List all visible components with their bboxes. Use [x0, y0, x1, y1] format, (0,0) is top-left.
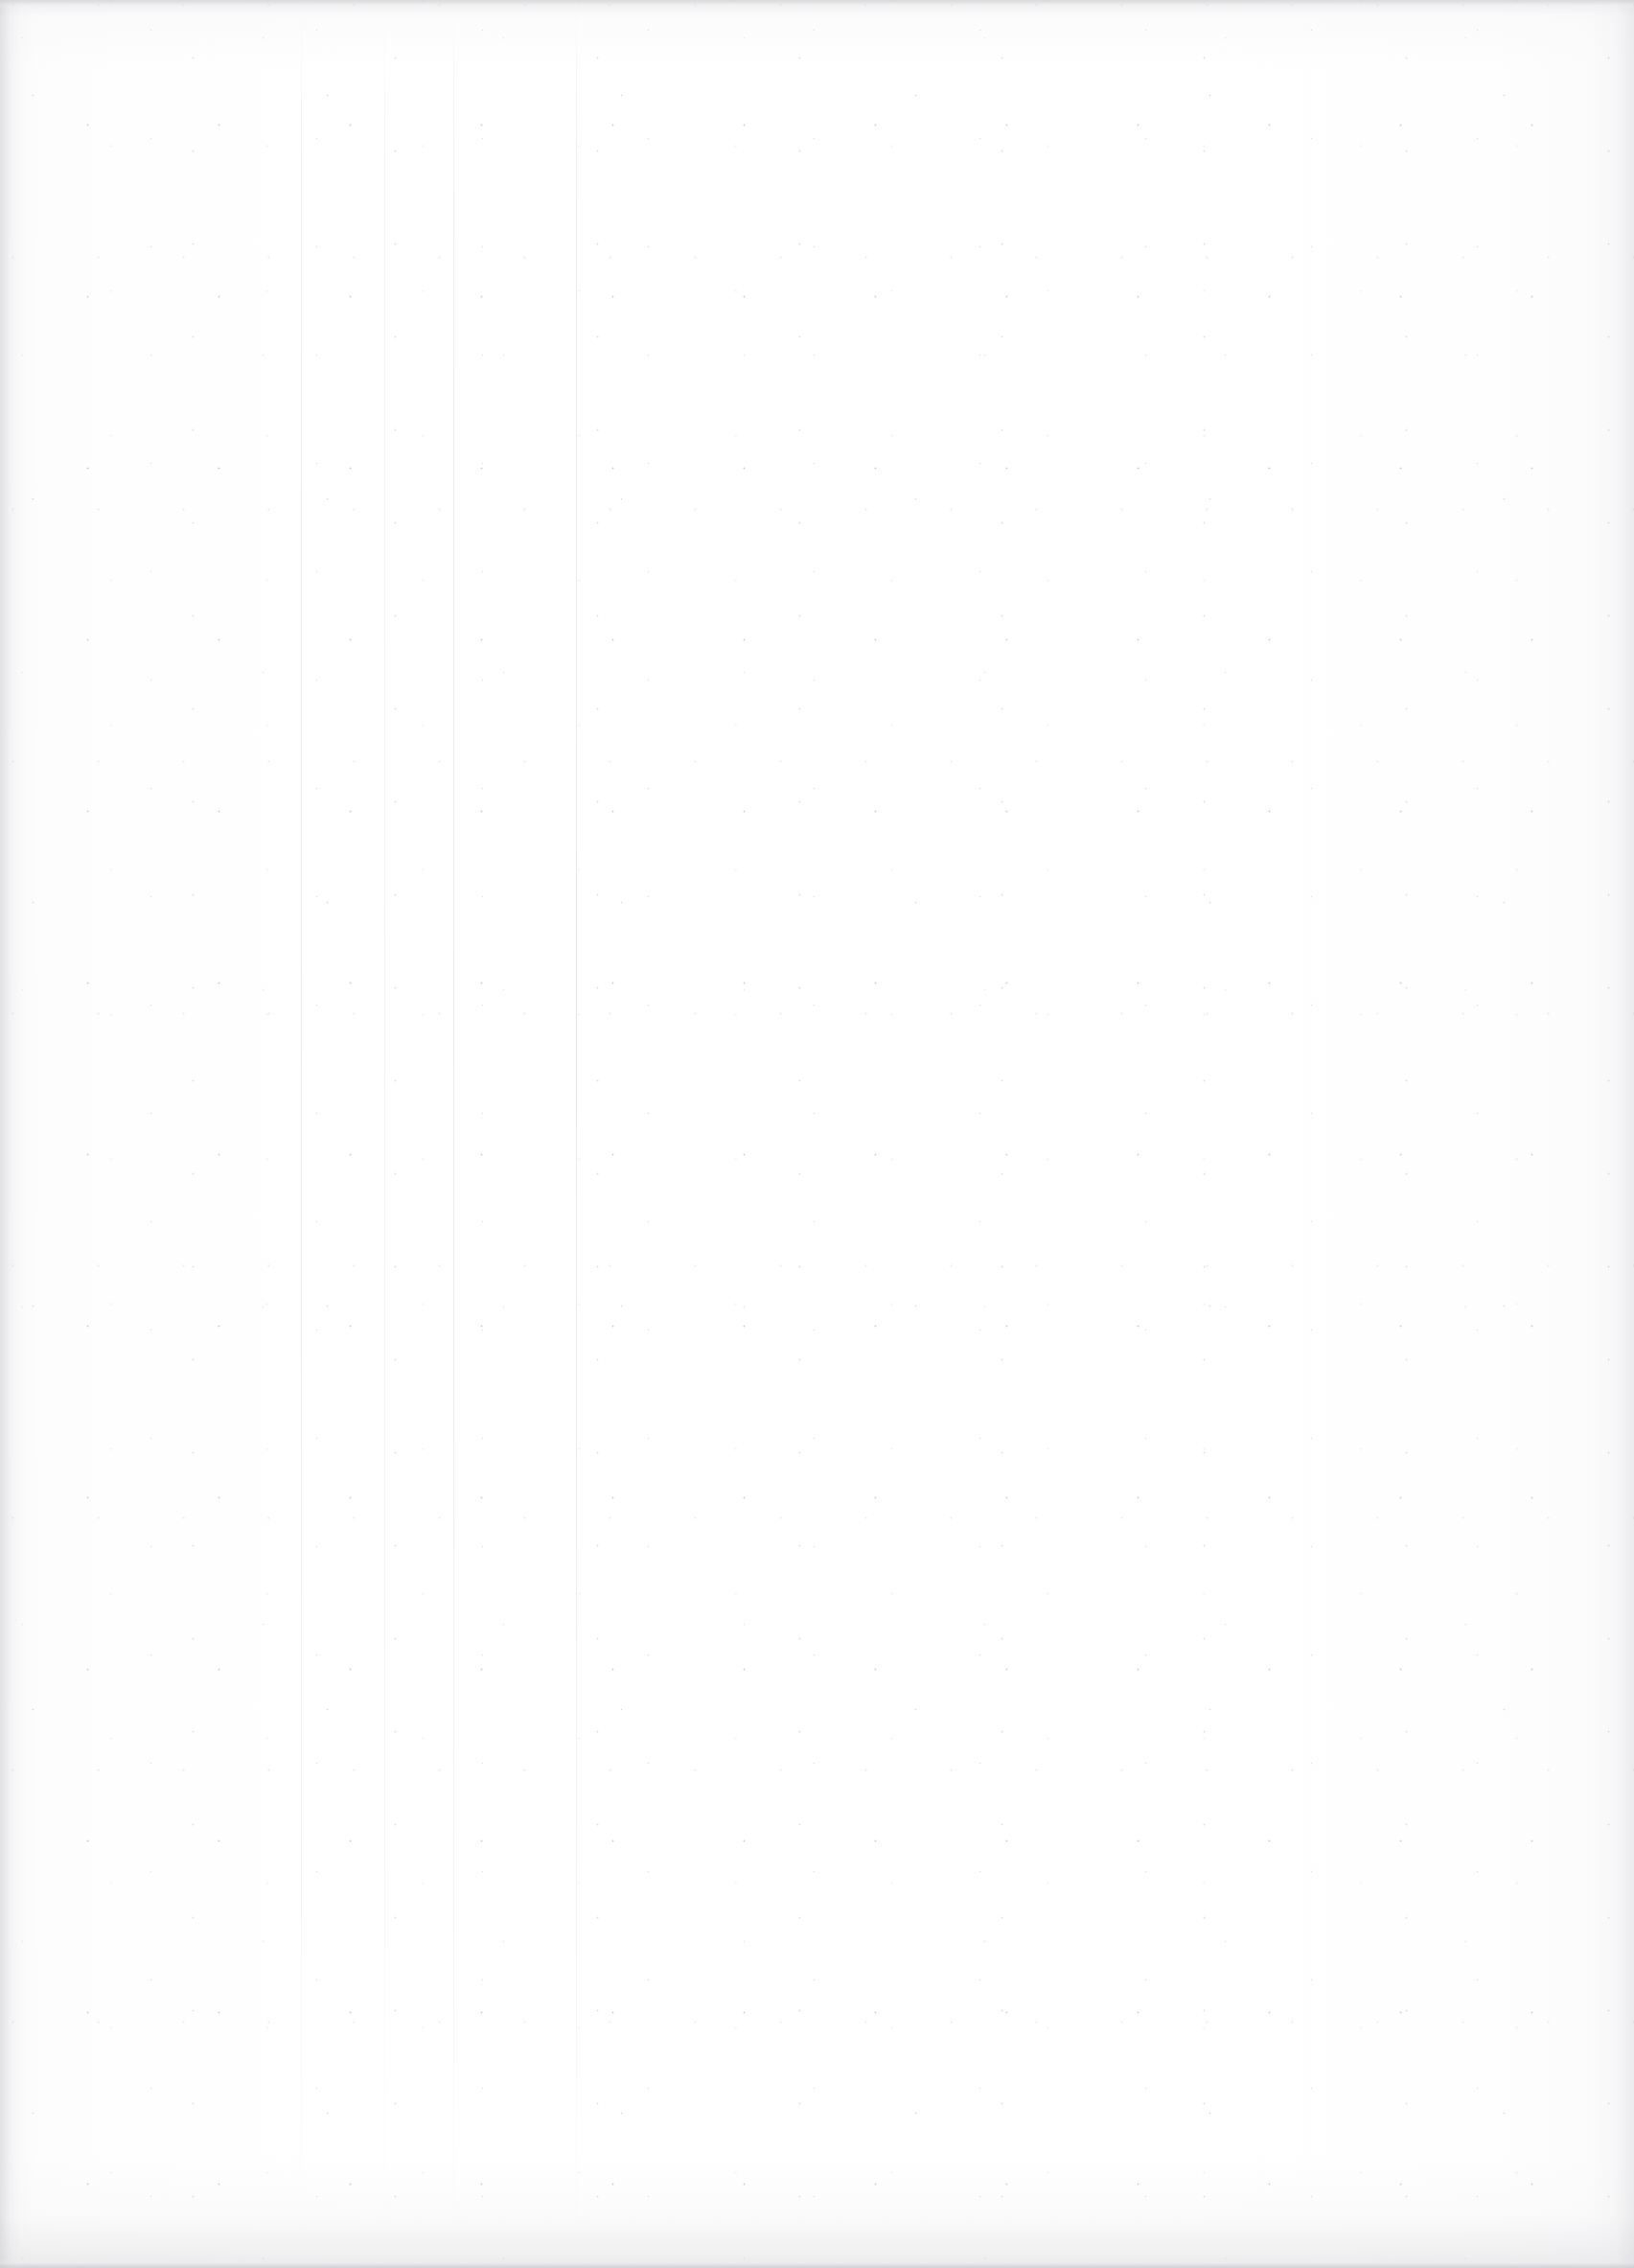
scanner-bed-top-edge	[0, 0, 1634, 10]
scanner-bed-bottom-edge	[0, 2258, 1634, 2268]
left-binding-shadow	[0, 0, 33, 2268]
text-block-region	[188, 201, 1453, 2080]
scanned-page	[0, 0, 1634, 2268]
right-page-edge-shadow	[1588, 0, 1634, 2268]
